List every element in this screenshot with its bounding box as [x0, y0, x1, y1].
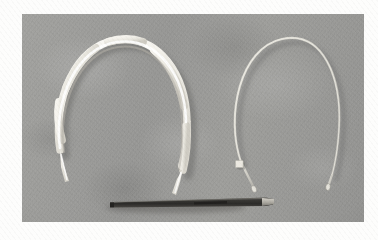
left-headband-twist-texture [58, 39, 186, 166]
right-headband [235, 38, 344, 193]
right-headband-endcap-left [250, 185, 257, 193]
screenshot-root [0, 0, 378, 240]
right-headband-wire-highlight [235, 38, 340, 175]
photograph [22, 14, 364, 222]
right-headband-wire [235, 38, 340, 175]
scale-pen-cap-end [110, 202, 114, 207]
left-headband [58, 39, 192, 195]
right-headband-endcap-right [325, 183, 331, 190]
right-headband-end-right [329, 175, 332, 184]
photo-objects-layer [22, 14, 364, 222]
size-tag-face [236, 161, 244, 168]
scale-pen [106, 198, 274, 213]
scale-pen-tip [262, 198, 274, 206]
